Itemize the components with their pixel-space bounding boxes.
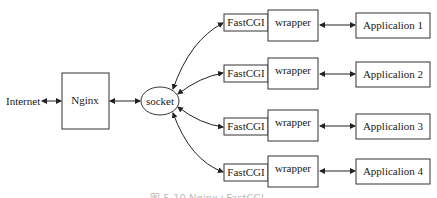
application-label: Applicalion 2 bbox=[363, 68, 423, 80]
row-1: FastCGI wrapper Applicalion 1 bbox=[224, 10, 430, 41]
wrapper-label: wrapper bbox=[275, 64, 311, 76]
wrapper-label: wrapper bbox=[275, 162, 311, 174]
socket-fastcgi-3-arrow bbox=[178, 107, 223, 127]
nginx-label: Nginx bbox=[71, 94, 99, 106]
fastcgi-label: FastCGI bbox=[227, 67, 265, 79]
application-label: Applicalion 4 bbox=[363, 165, 424, 177]
application-label: Applicalion 3 bbox=[363, 120, 424, 132]
fastcgi-label: FastCGI bbox=[227, 16, 265, 28]
socket-fastcgi-4-arrow bbox=[173, 113, 223, 172]
architecture-diagram: Internet Nginx socket FastCGI wrapper Ap… bbox=[0, 0, 437, 198]
socket-label: socket bbox=[146, 95, 174, 107]
row-4: FastCGI wrapper Applicalion 4 bbox=[224, 156, 430, 187]
figure-caption: 图 5-10 Nginx+FastCGI bbox=[150, 193, 264, 198]
fastcgi-label: FastCGI bbox=[227, 166, 265, 178]
wrapper-label: wrapper bbox=[275, 116, 311, 128]
wrapper-label: wrapper bbox=[275, 16, 311, 28]
fastcgi-label: FastCGI bbox=[227, 120, 265, 132]
row-2: FastCGI wrapper Applicalion 2 bbox=[224, 58, 430, 89]
row-3: FastCGI wrapper Applicalion 3 bbox=[224, 110, 430, 141]
application-label: Applicalion 1 bbox=[363, 19, 423, 31]
socket-fastcgi-2-arrow bbox=[178, 73, 223, 94]
socket-fastcgi-1-arrow bbox=[173, 23, 223, 89]
internet-label: Internet bbox=[6, 95, 40, 107]
